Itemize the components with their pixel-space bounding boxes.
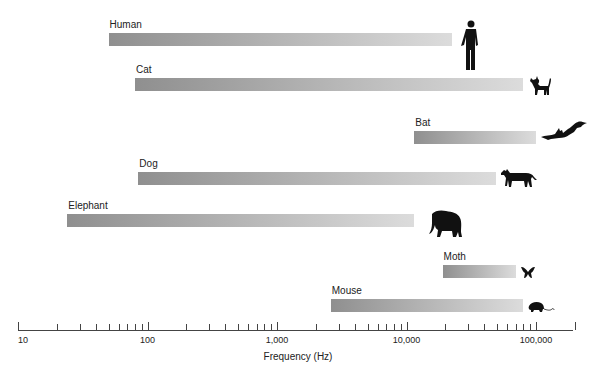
minor-tick	[484, 324, 485, 330]
human-icon	[459, 20, 481, 76]
minor-tick	[127, 324, 128, 330]
dog-icon	[500, 168, 538, 194]
range-bar-cat	[135, 78, 524, 91]
major-tick	[407, 322, 408, 330]
minor-tick	[468, 324, 469, 330]
x-tick-label: 100	[140, 335, 155, 345]
range-bar-mouse	[331, 299, 524, 312]
x-tick-label: 1,000	[266, 335, 289, 345]
major-tick	[148, 322, 149, 330]
minor-tick	[248, 324, 249, 330]
minor-tick	[394, 324, 395, 330]
x-axis-label: Frequency (Hz)	[0, 351, 596, 362]
major-tick	[18, 322, 19, 330]
bar-label-human: Human	[110, 19, 142, 30]
range-bar-moth	[443, 265, 516, 278]
range-bar-bat	[414, 131, 536, 144]
moth-icon	[520, 265, 536, 283]
range-bar-human	[109, 33, 453, 46]
elephant-icon	[424, 210, 464, 242]
major-tick	[536, 322, 537, 330]
minor-tick	[225, 324, 226, 330]
minor-tick	[386, 324, 387, 330]
minor-tick	[401, 324, 402, 330]
bar-label-dog: Dog	[139, 158, 157, 169]
minor-tick	[507, 324, 508, 330]
minor-tick	[516, 324, 517, 330]
range-bar-dog	[138, 172, 496, 185]
minor-tick	[378, 324, 379, 330]
axis-end-tick	[575, 322, 576, 330]
minor-tick	[264, 324, 265, 330]
major-tick	[277, 322, 278, 330]
x-axis-line	[18, 330, 573, 331]
mouse-icon	[527, 300, 555, 318]
range-bar-elephant	[67, 214, 414, 227]
minor-tick	[135, 324, 136, 330]
minor-tick	[368, 324, 369, 330]
minor-tick	[119, 324, 120, 330]
bar-label-cat: Cat	[136, 64, 152, 75]
minor-tick	[445, 324, 446, 330]
minor-tick	[109, 324, 110, 330]
x-tick-label: 10	[18, 335, 28, 345]
minor-tick	[209, 324, 210, 330]
minor-tick	[80, 324, 81, 330]
bat-icon	[541, 121, 587, 145]
bar-label-bat: Bat	[415, 117, 430, 128]
cat-icon	[529, 74, 553, 100]
minor-tick	[339, 324, 340, 330]
minor-tick	[355, 324, 356, 330]
bar-label-elephant: Elephant	[68, 200, 107, 211]
minor-tick	[316, 324, 317, 330]
x-tick-label: 100,000	[520, 335, 553, 345]
minor-tick	[142, 324, 143, 330]
minor-tick	[523, 324, 524, 330]
minor-tick	[271, 324, 272, 330]
minor-tick	[238, 324, 239, 330]
minor-tick	[57, 324, 58, 330]
minor-tick	[96, 324, 97, 330]
x-tick-label: 10,000	[393, 335, 421, 345]
bar-label-moth: Moth	[444, 251, 466, 262]
minor-tick	[497, 324, 498, 330]
bar-label-mouse: Mouse	[332, 285, 362, 296]
minor-tick	[186, 324, 187, 330]
minor-tick	[530, 324, 531, 330]
hearing-range-chart: HumanCatBatDogElephantMothMouse 101001,0…	[0, 0, 596, 375]
minor-tick	[257, 324, 258, 330]
